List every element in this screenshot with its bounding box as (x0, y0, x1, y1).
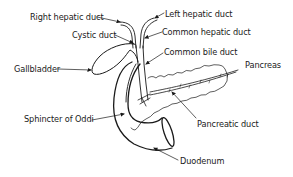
leader-gallbladder (58, 69, 91, 70)
leader-common-hepatic (145, 32, 162, 38)
pancreatic-duct-shape (150, 70, 238, 95)
label-common-bile-duct: Common bile duct (164, 47, 237, 57)
label-right-hepatic-duct: Right hepatic duct (30, 12, 104, 22)
biliary-diagram: Right hepatic duct Left hepatic duct Cys… (0, 0, 293, 177)
common-bile-duct-shape (136, 46, 148, 102)
leader-left-hepatic (155, 13, 164, 18)
label-gallbladder: Gallbladder (14, 64, 60, 74)
label-duodenum: Duodenum (180, 156, 224, 166)
label-left-hepatic-duct: Left hepatic duct (165, 9, 232, 19)
label-sphincter-of-oddi: Sphincter of Oddi (24, 114, 94, 124)
leader-common-bile (146, 53, 163, 64)
label-common-hepatic-duct: Common hepatic duct (162, 27, 251, 37)
leader-pancreatic (172, 92, 196, 118)
leader-cystic (115, 35, 133, 43)
label-cystic-duct: Cystic duct (72, 30, 116, 40)
label-pancreas: Pancreas (245, 60, 281, 70)
gallbladder-shape (92, 44, 138, 75)
label-pancreatic-duct: Pancreatic duct (197, 119, 259, 129)
leader-sphincter (92, 114, 124, 120)
